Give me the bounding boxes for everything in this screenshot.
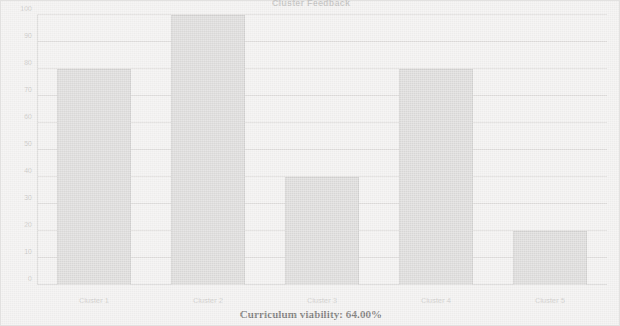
y-tick-label: 20: [24, 221, 32, 228]
y-tick-label: 10: [24, 248, 32, 255]
y-tick-label: 60: [24, 113, 32, 120]
x-label-slot: Cluster 3: [265, 289, 379, 307]
bar-series: [37, 15, 607, 285]
bar[interactable]: [399, 69, 473, 285]
x-tick-label: Cluster 4: [421, 296, 451, 305]
bar-slot: [265, 15, 379, 285]
y-tick-label: 40: [24, 167, 32, 174]
y-tick-label: 30: [24, 194, 32, 201]
chart-title: Cluster Feedback: [1, 0, 620, 8]
bar-slot: [37, 15, 151, 285]
bar-slot: [493, 15, 607, 285]
bar[interactable]: [57, 69, 131, 285]
y-tick-label: 70: [24, 86, 32, 93]
x-tick-label: Cluster 3: [307, 296, 337, 305]
figure-caption: Curriculum viability: 64.00%: [1, 308, 620, 320]
x-label-slot: Cluster 2: [151, 289, 265, 307]
bar-chart-figure: Cluster Feedback 0102030405060708090100 …: [0, 0, 620, 326]
bar[interactable]: [285, 177, 359, 285]
y-tick-label: 50: [24, 140, 32, 147]
bar-slot: [151, 15, 265, 285]
bar[interactable]: [513, 231, 587, 285]
plot-area: 0102030405060708090100: [37, 15, 607, 285]
x-axis-tick-labels: Cluster 1Cluster 2Cluster 3Cluster 4Clus…: [37, 289, 607, 307]
x-label-slot: Cluster 5: [493, 289, 607, 307]
x-tick-label: Cluster 1: [79, 296, 109, 305]
x-label-slot: Cluster 4: [379, 289, 493, 307]
y-tick-label: 0: [28, 275, 32, 282]
x-tick-label: Cluster 2: [193, 296, 223, 305]
bar-slot: [379, 15, 493, 285]
y-tick-label: 80: [24, 59, 32, 66]
x-tick-label: Cluster 5: [535, 296, 565, 305]
x-label-slot: Cluster 1: [37, 289, 151, 307]
bar[interactable]: [171, 15, 245, 285]
y-tick-label: 90: [24, 32, 32, 39]
